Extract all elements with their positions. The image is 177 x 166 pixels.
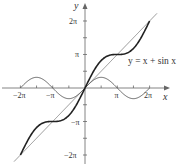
x-tick-label-2pi: 2π: [144, 91, 152, 100]
y-tick-label-neg-pi: −π: [71, 118, 80, 127]
y-axis-label: y: [73, 0, 79, 11]
y-tick-label-pi: π: [75, 50, 79, 59]
x-axis-label: x: [162, 91, 168, 102]
y-axis-arrow-icon: [83, 3, 88, 9]
x-tick-label-neg-pi: −π: [46, 91, 55, 100]
x-tick-label-neg-2pi: −2π: [13, 91, 26, 100]
curve-label: y = x + sin x: [128, 56, 176, 66]
y-tick-label-neg-2pi: −2π: [64, 151, 77, 160]
y-tick-label-2pi: 2π: [69, 17, 77, 26]
x-tick-label-pi: π: [115, 91, 119, 100]
plot-area: −2π −π π 2π x 2π π −π −2π y y = x + sin …: [0, 0, 177, 166]
x-axis-arrow-icon: [164, 86, 170, 91]
